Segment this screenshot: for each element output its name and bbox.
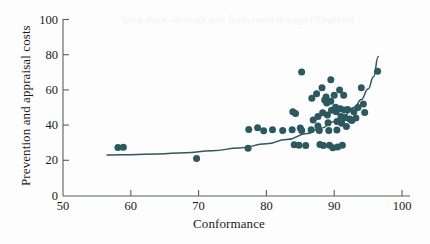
data-point xyxy=(260,127,267,134)
data-point xyxy=(292,110,299,117)
scatter-chart: faint show-through text from reverse pag… xyxy=(0,0,430,244)
data-point xyxy=(269,126,276,133)
data-points xyxy=(114,68,381,162)
data-point xyxy=(360,100,367,107)
x-tick-label: 100 xyxy=(393,199,412,214)
x-tick-label: 90 xyxy=(328,199,341,214)
y-tick-label: 80 xyxy=(46,47,59,62)
x-tick-label: 80 xyxy=(260,199,273,214)
x-tick-label: 50 xyxy=(57,199,70,214)
data-point xyxy=(339,142,346,149)
data-point xyxy=(120,144,127,151)
data-point xyxy=(289,126,296,133)
data-point xyxy=(254,124,261,131)
data-point xyxy=(352,115,359,122)
data-point xyxy=(308,126,315,133)
data-point xyxy=(295,142,302,149)
data-point xyxy=(344,106,351,113)
data-point xyxy=(358,84,365,91)
x-tick-label: 60 xyxy=(125,199,138,214)
data-point xyxy=(331,92,338,99)
data-point xyxy=(325,119,332,126)
y-tick-label: 100 xyxy=(39,12,58,27)
data-point xyxy=(343,123,350,130)
y-axis-ticks xyxy=(63,20,69,161)
data-point xyxy=(298,127,305,134)
data-point xyxy=(245,126,252,133)
data-point xyxy=(320,142,327,149)
y-tick-label: 40 xyxy=(46,118,59,133)
data-point xyxy=(316,127,323,134)
data-point xyxy=(279,127,286,134)
data-point xyxy=(313,90,320,97)
data-point xyxy=(193,155,200,162)
y-axis-title: Prevention and appraisal costs xyxy=(18,25,34,186)
data-point xyxy=(361,109,368,116)
data-point xyxy=(325,127,332,134)
data-point xyxy=(327,76,334,83)
data-point xyxy=(340,92,347,99)
data-point xyxy=(319,84,326,91)
x-axis-title: Conformance xyxy=(0,216,430,232)
data-point xyxy=(245,145,252,152)
data-point xyxy=(302,142,309,149)
data-point xyxy=(298,68,305,75)
data-point xyxy=(374,68,381,75)
x-axis-ticks xyxy=(131,190,402,196)
y-tick-label: 20 xyxy=(46,153,59,168)
y-tick-label: 60 xyxy=(46,82,59,97)
x-tick-label: 70 xyxy=(192,199,205,214)
data-point xyxy=(333,127,340,134)
